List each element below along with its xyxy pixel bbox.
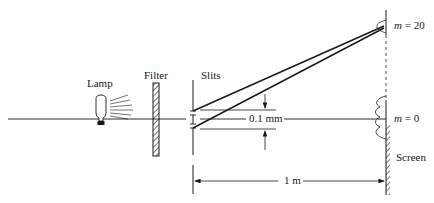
- filter-plate: [153, 83, 159, 156]
- order-m0-value: = 0: [405, 112, 419, 124]
- order-m20-variable: m: [394, 19, 402, 31]
- lamp-label: Lamp: [87, 78, 113, 89]
- fringe-pattern-m0: [376, 96, 387, 139]
- slits-label: Slits: [201, 70, 221, 81]
- order-m20-label: m = 20: [394, 20, 425, 31]
- filter-label: Filter: [144, 70, 168, 81]
- order-m0-variable: m: [394, 112, 402, 124]
- double-slit-diagram: Lamp Filter Slits 0.1 mm 1 m Screen m = …: [0, 0, 434, 203]
- slit-separation-label: 0.1 mm: [248, 113, 284, 124]
- diagram-drawing: [0, 0, 434, 203]
- order-m0-label: m = 0: [394, 113, 419, 124]
- order-m20-value: = 20: [405, 19, 425, 31]
- rays-to-m20: [193, 26, 384, 128]
- slit-barrier: [190, 80, 196, 155]
- lamp-icon: [96, 95, 133, 125]
- screen-label: Screen: [396, 152, 426, 163]
- screen: [386, 10, 390, 195]
- distance-label: 1 m: [282, 175, 303, 186]
